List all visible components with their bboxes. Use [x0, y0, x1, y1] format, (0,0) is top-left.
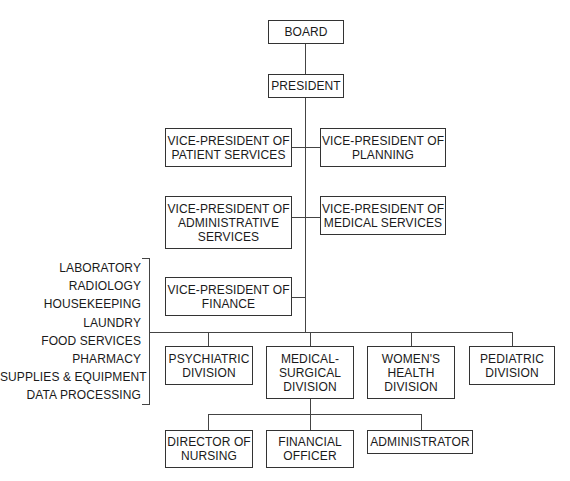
connector-vp-patient [291, 147, 321, 148]
department-item: RADIOLOGY [0, 277, 141, 295]
department-item: LAUNDRY [0, 314, 141, 332]
departments-bracket-bottom [142, 404, 150, 405]
departments-bracket-top [142, 258, 150, 259]
node-board: BOARD [268, 20, 344, 44]
connector-medsurg-subbar [208, 414, 422, 415]
department-item: HOUSEKEEPING [0, 295, 141, 313]
department-item: FOOD SERVICES [0, 332, 141, 350]
connector-psych [208, 332, 209, 346]
shared-services-list: LABORATORY RADIOLOGY HOUSEKEEPING LAUNDR… [0, 259, 141, 405]
connector-dir-nursing [208, 414, 209, 430]
node-vp-planning: VICE-PRESIDENT OF PLANNING [320, 128, 446, 167]
node-medical-surgical-division: MEDICAL- SURGICAL DIVISION [266, 346, 354, 399]
node-vp-medical-services: VICE-PRESIDENT OF MEDICAL SERVICES [320, 196, 446, 235]
node-vp-patient-services: VICE-PRESIDENT OF PATIENT SERVICES [165, 128, 292, 167]
node-president: PRESIDENT [268, 74, 344, 98]
node-director-of-nursing: DIRECTOR OF NURSING [165, 430, 253, 468]
departments-bracket [149, 258, 150, 405]
department-item: PHARMACY [0, 350, 141, 368]
node-vp-finance: VICE-PRESIDENT OF FINANCE [165, 277, 292, 316]
node-vp-administrative-services: VICE-PRESIDENT OF ADMINISTRATIVE SERVICE… [165, 196, 292, 249]
department-item: LABORATORY [0, 259, 141, 277]
connector-vp-admin [291, 217, 321, 218]
department-item: DATA PROCESSING [0, 386, 141, 404]
node-financial-officer: FINANCIAL OFFICER [266, 430, 354, 468]
node-administrator: ADMINISTRATOR [367, 430, 473, 454]
connector-board-president [305, 43, 306, 74]
node-womens-health-division: WOMEN'S HEALTH DIVISION [367, 346, 455, 399]
connector-administrator [421, 414, 422, 430]
connector-vp-finance [291, 297, 306, 298]
node-psychiatric-division: PSYCHIATRIC DIVISION [165, 346, 253, 385]
node-pediatric-division: PEDIATRIC DIVISION [469, 346, 555, 385]
connector-medsurg [310, 332, 311, 346]
connector-pediatric [512, 332, 513, 346]
connector-divisions-bar [149, 332, 513, 333]
department-item: SUPPLIES & EQUIPMENT [0, 368, 141, 386]
connector-womens [411, 332, 412, 346]
